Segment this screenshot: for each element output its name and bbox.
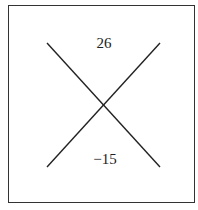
bottom-value: −15 [75, 151, 135, 168]
top-value: 26 [74, 35, 134, 52]
x-lines [0, 0, 198, 210]
